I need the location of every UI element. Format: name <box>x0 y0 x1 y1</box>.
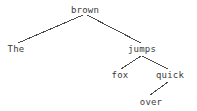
tree-node-fox: fox <box>112 70 129 80</box>
tree-edge-quick-over <box>150 82 168 95</box>
tree-node-the: The <box>8 44 25 54</box>
tree-edge-jumps-quick <box>142 56 168 69</box>
tree-edge-brown-jumps <box>87 15 141 43</box>
tree-edge-brown-the <box>18 15 83 43</box>
tree-edge-jumps-fox <box>121 56 141 69</box>
tree-edge-layer <box>0 0 197 111</box>
tree-diagram: brownThejumpsfoxquickover <box>0 0 197 111</box>
tree-node-quick: quick <box>156 70 184 80</box>
tree-node-brown: brown <box>71 5 99 15</box>
tree-node-over: over <box>140 97 162 107</box>
tree-node-jumps: jumps <box>128 44 156 54</box>
